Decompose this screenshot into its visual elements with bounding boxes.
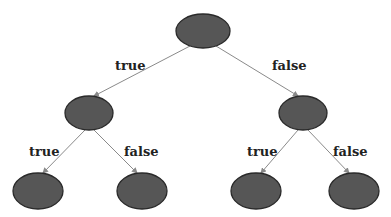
node-left-right — [117, 173, 167, 209]
edge-label-right-true: true — [247, 145, 278, 158]
edge-label-left-false: false — [124, 145, 159, 158]
edge-label-right-false: false — [333, 145, 368, 158]
node-left-left — [13, 173, 63, 209]
tree-diagram — [0, 0, 391, 217]
edge-label-root-false: false — [272, 59, 307, 72]
edge-label-left-true: true — [29, 145, 60, 158]
node-right — [279, 96, 327, 130]
node-right-right — [329, 173, 379, 209]
node-left — [65, 96, 113, 130]
node-right-left — [231, 173, 281, 209]
nodes — [13, 14, 379, 209]
edge-label-root-true: true — [115, 59, 146, 72]
node-root — [176, 14, 230, 48]
